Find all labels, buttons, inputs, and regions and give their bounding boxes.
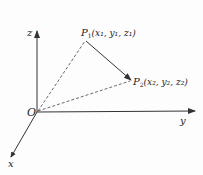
point-p1-label: P1(x₁, y₁, z₁) bbox=[81, 28, 136, 39]
diagram-canvas: z y x O P1(x₁, y₁, z₁) P2(x₂, y₂, z₂) bbox=[0, 0, 203, 175]
dashed-line-o-p1 bbox=[38, 41, 85, 111]
point-p2-label: P2(x₂, y₂, z₂) bbox=[133, 77, 188, 88]
z-axis-label: z bbox=[27, 28, 32, 38]
x-axis-label: x bbox=[8, 159, 14, 169]
p1-coords: (x₁, y₁, z₁) bbox=[92, 28, 136, 38]
p2-coords: (x₂, y₂, z₂) bbox=[144, 77, 188, 87]
p2-name: P bbox=[133, 76, 140, 87]
p1-name: P bbox=[81, 27, 88, 38]
vector-p1-p2 bbox=[86, 41, 131, 80]
origin-label: O bbox=[27, 107, 36, 118]
y-axis-label: y bbox=[180, 116, 186, 126]
y-axis bbox=[37, 111, 195, 112]
dashed-line-o-p2 bbox=[38, 81, 130, 111]
